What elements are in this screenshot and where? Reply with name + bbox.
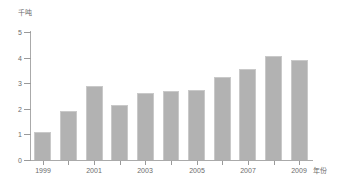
x-axis-tick-label: 2001 [74,167,114,175]
bar [214,77,231,160]
y-axis-tick-label: 2 [12,106,22,113]
x-axis-tick [68,161,69,165]
x-axis-tick [274,161,275,165]
bar [265,56,282,160]
x-axis-tick-label: 1999 [23,167,63,175]
bar [34,132,51,160]
x-axis-tick [43,161,44,165]
bar [86,86,103,160]
bar-chart: 千吨 年份 012345 199920012003200520072009 [0,0,341,184]
x-axis-tick [248,161,249,165]
bar [291,60,308,160]
x-axis-tick-label: 2003 [125,167,165,175]
y-axis-unit-label: 千吨 [18,8,32,17]
x-axis-tick [197,161,198,165]
x-axis-tick [145,161,146,165]
bar [188,90,205,160]
x-axis-tick [222,161,223,165]
y-axis-tick-label: 0 [12,157,22,164]
y-axis-tick-label: 4 [12,55,22,62]
x-axis-tick [120,161,121,165]
bar [239,69,256,160]
y-axis-tick-label: 1 [12,131,22,138]
bar [111,105,128,160]
bar [60,111,77,160]
bar [163,91,180,160]
y-axis-tick-label: 5 [12,29,22,36]
x-axis-tick [94,161,95,165]
bar [137,93,154,160]
x-axis-tick [299,161,300,165]
x-axis-tick-label: 2007 [228,167,268,175]
x-axis-tick-label: 2005 [177,167,217,175]
plot-area [30,32,312,160]
y-axis-tick [24,160,31,161]
x-axis-tick [171,161,172,165]
y-axis-tick-label: 3 [12,80,22,87]
x-axis-tick-label: 2009 [279,167,319,175]
